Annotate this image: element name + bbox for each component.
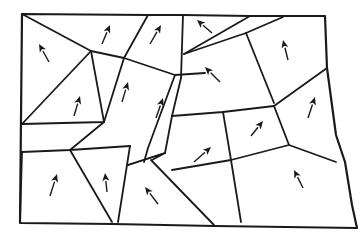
arrow-icon	[74, 96, 81, 116]
arrow-icon	[102, 25, 110, 44]
arrow-icon	[39, 44, 49, 62]
arrow-icon	[194, 147, 211, 162]
cell-boundaries	[20, 14, 336, 225]
cell-edge	[70, 122, 104, 150]
arrow-icon	[50, 174, 58, 196]
arrow-icon	[308, 97, 316, 118]
arrow-icon	[282, 40, 289, 60]
cell-edge	[274, 68, 327, 106]
cell-edge	[181, 15, 183, 78]
cell-edge	[104, 58, 124, 122]
arrow-icon	[145, 187, 158, 204]
cell-edge	[22, 146, 130, 152]
outer-boundary	[20, 14, 357, 228]
cell-edge	[22, 51, 91, 124]
arrow-icon	[205, 67, 220, 82]
arrow-icon	[251, 121, 263, 136]
outer-boundary-line	[20, 14, 357, 228]
cell-edge	[144, 75, 175, 162]
arrow-icon	[122, 82, 129, 102]
orientation-arrows	[39, 20, 316, 204]
cell-edge	[172, 160, 231, 170]
arrow-icon	[197, 20, 212, 33]
cell-edge	[118, 146, 130, 222]
arrow-icon	[102, 173, 109, 192]
arrow-icon	[150, 25, 161, 44]
arrow-icon	[294, 170, 303, 188]
cell-edge	[231, 160, 241, 222]
cell-edge	[124, 15, 148, 58]
cell-edge	[246, 17, 283, 103]
cell-edge	[22, 51, 104, 124]
cell-edge	[274, 106, 336, 162]
cell-edge	[151, 160, 214, 225]
grain-mosaic-diagram	[0, 0, 363, 240]
cell-edge	[22, 14, 205, 75]
